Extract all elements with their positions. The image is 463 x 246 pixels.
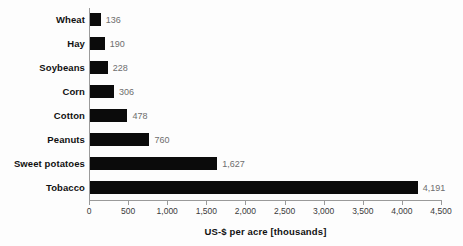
x-axis-tick <box>167 201 168 205</box>
bar-row: Peanuts760 <box>0 128 463 152</box>
bar-value-label: 4,191 <box>423 176 446 200</box>
category-label: Peanuts <box>0 128 85 152</box>
x-axis-tick <box>402 201 403 205</box>
bar <box>90 109 127 122</box>
bar <box>90 37 105 50</box>
x-axis-tick-label: 500 <box>108 206 148 216</box>
x-axis-tick <box>89 201 90 205</box>
bar <box>90 61 108 74</box>
x-axis-tick <box>285 201 286 205</box>
category-label: Corn <box>0 80 85 104</box>
bar-row: Hay190 <box>0 32 463 56</box>
bar <box>90 13 101 26</box>
bar-row: Wheat136 <box>0 8 463 32</box>
x-axis-tick <box>245 201 246 205</box>
bar-value-label: 1,627 <box>222 152 245 176</box>
x-axis-tick-label: 3,500 <box>343 206 383 216</box>
bar-row: Sweet potatoes1,627 <box>0 152 463 176</box>
x-axis-tick-label: 2,000 <box>225 206 265 216</box>
category-label: Wheat <box>0 8 85 32</box>
x-axis-title: US-$ per acre [thousands] <box>89 226 442 237</box>
category-label: Soybeans <box>0 56 85 80</box>
x-axis-tick-label: 0 <box>69 206 109 216</box>
bar-row: Soybeans228 <box>0 56 463 80</box>
bar-row: Corn306 <box>0 80 463 104</box>
x-axis-tick-label: 3,000 <box>304 206 344 216</box>
bar-value-label: 190 <box>110 32 125 56</box>
bar <box>90 181 418 194</box>
bar-row: Tobacco4,191 <box>0 176 463 200</box>
x-axis-tick <box>441 201 442 205</box>
bar <box>90 133 149 146</box>
x-axis-tick <box>206 201 207 205</box>
bar-value-label: 478 <box>132 104 147 128</box>
bar-value-label: 136 <box>106 8 121 32</box>
x-axis-tick-label: 4,000 <box>382 206 422 216</box>
x-axis-line <box>89 200 442 201</box>
plot-area: Wheat136Hay190Soybeans228Corn306Cotton47… <box>0 0 463 200</box>
x-axis-tick-label: 2,500 <box>265 206 305 216</box>
category-label: Hay <box>0 32 85 56</box>
bar <box>90 157 217 170</box>
category-label: Cotton <box>0 104 85 128</box>
bar-row: Cotton478 <box>0 104 463 128</box>
x-axis-tick <box>363 201 364 205</box>
bar-value-label: 228 <box>113 56 128 80</box>
bar-value-label: 306 <box>119 80 134 104</box>
x-axis-tick-label: 4,500 <box>421 206 461 216</box>
y-axis-line <box>89 8 90 201</box>
category-label: Sweet potatoes <box>0 152 85 176</box>
x-axis-tick-label: 1,000 <box>147 206 187 216</box>
category-label: Tobacco <box>0 176 85 200</box>
x-axis-tick-label: 1,500 <box>186 206 226 216</box>
bar <box>90 85 114 98</box>
x-axis-tick <box>128 201 129 205</box>
bar-value-label: 760 <box>154 128 169 152</box>
bar-chart: Wheat136Hay190Soybeans228Corn306Cotton47… <box>0 0 463 246</box>
x-axis-tick <box>324 201 325 205</box>
